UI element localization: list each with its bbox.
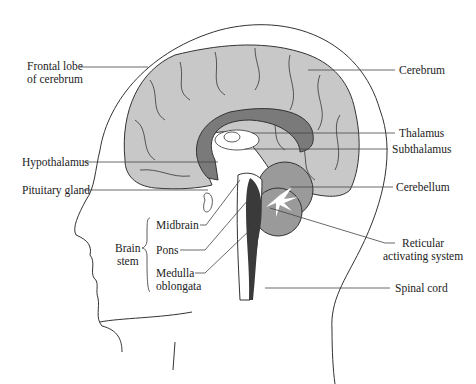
label-thalamus: Thalamus [399, 127, 444, 140]
reticular-line2: activating system [383, 250, 463, 263]
label-medulla: Medulla oblongata [156, 267, 201, 293]
brain-stem-line2: stem [115, 255, 141, 268]
medulla-line2: oblongata [156, 280, 201, 293]
frontal-lobe-line2: of cerebrum [27, 73, 83, 86]
label-pons: Pons [156, 244, 178, 257]
label-reticular: Reticular activating system [383, 237, 463, 263]
label-midbrain: Midbrain [156, 219, 199, 232]
frontal-lobe-line1: Frontal lobe [27, 60, 83, 73]
label-frontal-lobe: Frontal lobe of cerebrum [27, 60, 83, 86]
cerebellum-shape [254, 162, 313, 236]
reticular-line1: Reticular [383, 237, 463, 250]
label-spinal-cord: Spinal cord [395, 282, 448, 295]
medulla-line1: Medulla [156, 267, 201, 280]
label-cerebrum: Cerebrum [399, 64, 445, 77]
label-pituitary: Pituitary gland [22, 184, 90, 197]
label-subthalamus: Subthalamus [392, 143, 451, 156]
brain-stem-line1: Brain [115, 242, 141, 255]
label-hypothalamus: Hypothalamus [22, 156, 89, 169]
label-brain-stem: Brain stem [115, 242, 141, 268]
label-cerebellum: Cerebellum [396, 181, 450, 194]
